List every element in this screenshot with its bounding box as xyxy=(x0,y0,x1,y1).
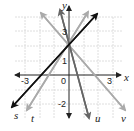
tick-label-y-neg2: -2 xyxy=(58,100,66,109)
line-label-v: v xyxy=(121,113,126,124)
x-axis-label: x xyxy=(124,72,129,83)
line-label-s: s xyxy=(14,110,18,121)
axes xyxy=(15,6,121,118)
tick-label-origin: 0 xyxy=(61,77,66,86)
tick-label-x-3: 3 xyxy=(107,77,112,86)
line-label-u: u xyxy=(95,113,101,124)
line-label-t: t xyxy=(31,113,34,124)
y-axis-label: y xyxy=(62,0,67,11)
coordinate-plane: y x -3 0 3 3 1 -2 s t u v xyxy=(0,0,134,131)
tick-label-y-1: 1 xyxy=(62,57,67,66)
tick-label-y-3: 3 xyxy=(62,28,67,37)
tick-label-x-neg3: -3 xyxy=(21,77,29,86)
